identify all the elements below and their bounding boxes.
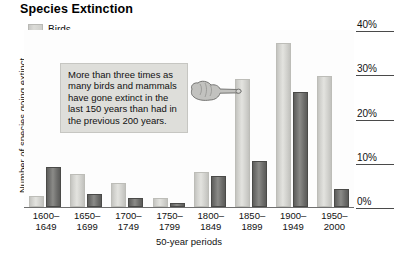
x-axis-tick-label: 1900–1949	[273, 210, 313, 232]
y-axis-tick-rule	[356, 75, 394, 76]
x-tick-line-2: 1949	[273, 221, 313, 232]
y-axis: 40%30%20%10%0%	[356, 0, 402, 272]
x-tick-line-2: 1749	[108, 221, 148, 232]
x-tick-line-2: 1699	[67, 221, 107, 232]
bar-group	[274, 30, 312, 207]
bar-birds	[276, 43, 291, 207]
y-axis-tick: 20%	[356, 108, 398, 121]
y-axis-tick-label: 40%	[356, 19, 398, 30]
bar-mammals	[211, 176, 226, 207]
x-axis-tick-labels: 1600–16491650–16991700–17491750–17991800…	[24, 210, 354, 236]
x-axis-tick-label: 1650–1699	[67, 210, 107, 232]
x-tick-line-1: 1950–	[314, 210, 354, 221]
x-axis-tick-label: 1800–1849	[191, 210, 231, 232]
x-tick-line-1: 1700–	[108, 210, 148, 221]
y-axis-tick-rule	[356, 31, 394, 32]
callout-box: More than three times as many birds and …	[60, 63, 188, 133]
bar-birds	[194, 172, 209, 207]
x-tick-line-1: 1600–	[26, 210, 66, 221]
y-axis-tick-rule	[356, 164, 394, 165]
y-axis-tick-label: 10%	[356, 152, 398, 163]
x-axis-tick-label: 1850–1899	[232, 210, 272, 232]
x-tick-line-2: 2000	[314, 221, 354, 232]
x-tick-line-1: 1800–	[191, 210, 231, 221]
y-axis-tick: 30%	[356, 63, 398, 76]
callout-text: More than three times as many birds and …	[68, 69, 180, 126]
bar-mammals	[293, 92, 308, 207]
y-axis-tick-rule	[356, 120, 394, 121]
y-axis-tick: 0%	[356, 196, 398, 209]
bar-mammals	[128, 198, 143, 207]
y-axis-tick: 40%	[356, 19, 398, 32]
species-extinction-chart: Species Extinction Birds Mammals Number …	[0, 0, 402, 272]
bar-mammals	[252, 161, 267, 207]
x-axis-title: 50-year periods	[24, 236, 354, 247]
x-axis-tick-label: 1950–2000	[314, 210, 354, 232]
bar-mammals	[334, 189, 349, 207]
bar-birds	[70, 174, 85, 207]
y-axis-tick-rule	[356, 208, 394, 209]
chart-title: Species Extinction	[20, 2, 133, 16]
bar-group	[315, 30, 353, 207]
x-tick-line-1: 1900–	[273, 210, 313, 221]
x-axis-tick-label: 1600–1649	[26, 210, 66, 232]
bar-mammals	[87, 194, 102, 207]
y-axis-tick-label: 0%	[356, 196, 398, 207]
x-tick-line-1: 1650–	[67, 210, 107, 221]
x-tick-line-2: 1849	[191, 221, 231, 232]
bar-group	[192, 30, 230, 207]
y-axis-tick-label: 30%	[356, 63, 398, 74]
x-tick-line-1: 1850–	[232, 210, 272, 221]
x-tick-line-2: 1799	[150, 221, 190, 232]
y-axis-tick: 10%	[356, 152, 398, 165]
x-axis-tick-label: 1700–1749	[108, 210, 148, 232]
pointing-hand-icon	[188, 76, 248, 106]
y-axis-tick-label: 20%	[356, 108, 398, 119]
bar-birds	[153, 198, 168, 207]
x-tick-line-2: 1899	[232, 221, 272, 232]
bar-birds	[317, 76, 332, 207]
x-axis-baseline	[24, 207, 354, 208]
x-axis-tick-label: 1750–1799	[150, 210, 190, 232]
bar-mammals	[46, 167, 61, 207]
bar-birds	[29, 196, 44, 207]
x-tick-line-1: 1750–	[150, 210, 190, 221]
x-tick-line-2: 1649	[26, 221, 66, 232]
bar-birds	[111, 183, 126, 207]
bar-group	[233, 30, 271, 207]
